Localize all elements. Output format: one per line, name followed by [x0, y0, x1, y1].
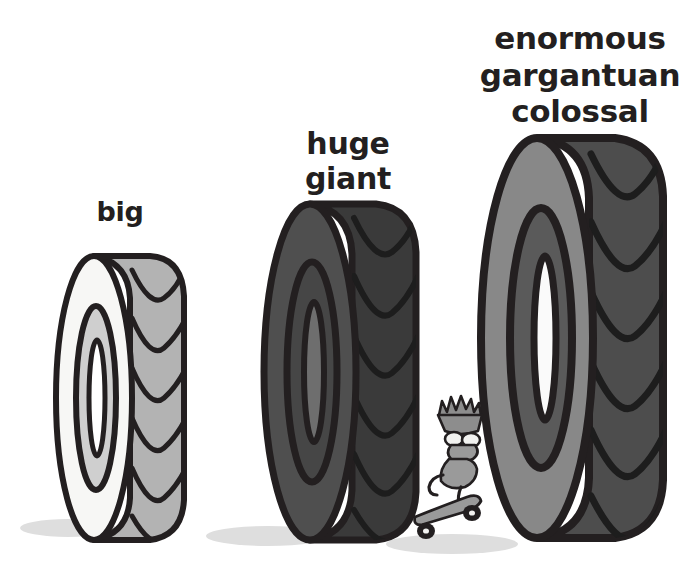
tire-hub-hole	[534, 256, 556, 420]
skateboard-wheel-rear-hub	[423, 528, 429, 533]
skater-head	[438, 415, 482, 434]
tire-hub-hole	[89, 340, 105, 456]
illustration-canvas: big huge giant enormous gargantuan colos…	[0, 0, 700, 563]
label-tire-medium: huge giant	[258, 126, 438, 197]
skater-character-icon	[405, 385, 510, 545]
tire-small	[32, 248, 202, 548]
skateboard-wheel-front-hub	[469, 510, 475, 515]
label-tire-large: enormous gargantuan colossal	[460, 20, 700, 130]
skater-hair	[439, 396, 481, 416]
tire-hub-hole	[304, 302, 324, 442]
label-tire-small: big	[40, 196, 200, 228]
skater-body	[441, 459, 477, 488]
